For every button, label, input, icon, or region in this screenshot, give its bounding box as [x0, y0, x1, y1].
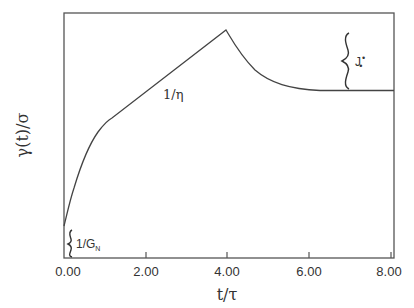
brace-j-icon	[342, 33, 349, 89]
annot-recoverable-compliance: J••	[355, 53, 365, 71]
brace-gn-icon	[68, 230, 72, 257]
x-tick-label-8: 8.00	[376, 264, 401, 279]
x-tick-label-6: 6.00	[296, 264, 321, 279]
x-tick-label-2: 2.00	[133, 264, 158, 279]
annot-inverse-viscosity: 1/η	[163, 87, 183, 102]
compliance-chart: 0.00 2.00 4.00 6.00 8.00 t/τ γ(t)/σ 1/GN…	[0, 0, 414, 308]
x-axis-ticks	[146, 252, 391, 258]
plot-frame	[64, 13, 394, 258]
annot-inverse-gn: 1/GN	[76, 237, 100, 252]
x-tick-label-0: 0.00	[55, 264, 80, 279]
x-tick-label-4: 4.00	[214, 264, 239, 279]
y-axis-label: γ(t)/σ	[13, 113, 32, 158]
x-axis-label: t/τ	[217, 285, 238, 304]
